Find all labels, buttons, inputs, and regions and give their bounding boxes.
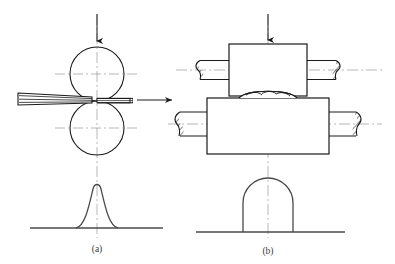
panel-a-group: (a) xyxy=(18,14,163,255)
panel-b-top-roll-body xyxy=(229,44,307,96)
figure-canvas: (a) xyxy=(0,0,395,264)
panel-b-bottom-roll-body xyxy=(207,98,329,154)
panel-b-caption: (b) xyxy=(262,246,273,257)
panel-b-group: (b) xyxy=(168,14,382,257)
rolling-process-figure: (a) xyxy=(0,0,395,264)
panel-a-workpiece-entry xyxy=(18,93,92,105)
panel-a-caption: (a) xyxy=(92,244,103,255)
panel-a-workpiece-exit xyxy=(96,98,133,102)
